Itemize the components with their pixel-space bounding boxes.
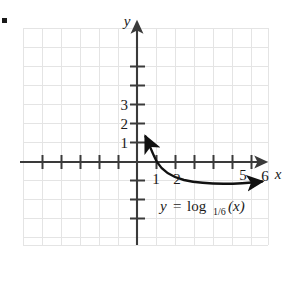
equation-annotation: y = log 1/6 (x): [158, 198, 245, 217]
logarithm-graph-figure: 1 2 3 1 2 5 6 x y y = log 1/6 (x): [0, 0, 288, 283]
equation-base: 1/6: [213, 206, 226, 217]
x-tick-label-2: 2: [173, 171, 181, 187]
y-tick-label-3: 3: [121, 97, 129, 113]
equation-lhs: y: [158, 198, 167, 214]
graph-canvas: 1 2 3 1 2 5 6 x y y = log 1/6 (x): [0, 0, 288, 283]
x-tick-label-6: 6: [261, 168, 269, 184]
bullet-marker-icon: [2, 18, 7, 23]
equation-func: log: [187, 198, 207, 214]
equation-lhs-var: y: [158, 198, 167, 214]
y-axis: [130, 22, 145, 245]
x-tick-label-1: 1: [152, 171, 160, 187]
y-tick-label-2: 2: [121, 116, 129, 132]
x-axis: [20, 155, 266, 169]
equation-argument: (x): [228, 198, 245, 215]
x-axis-label: x: [274, 166, 282, 182]
x-tick-label-5: 5: [239, 167, 247, 183]
equation-equals: =: [173, 198, 181, 214]
y-tick-label-1: 1: [121, 135, 129, 151]
y-axis-label: y: [122, 13, 131, 29]
